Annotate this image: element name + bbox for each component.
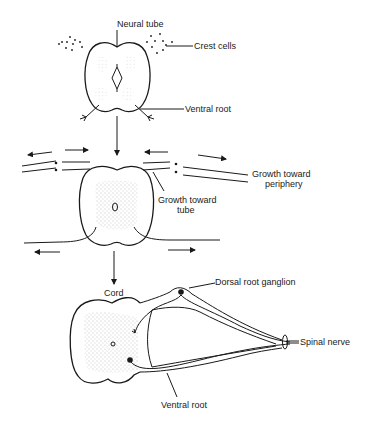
label-growth-toward-tube-2: tube (177, 205, 195, 215)
stage-3-spinal-cord: Cord Spinal nerve Dorsal root ganglion (70, 277, 350, 410)
ventral-root-right (135, 105, 154, 121)
label-spinal-nerve: Spinal nerve (300, 337, 350, 347)
dorsal-root-right-inner (143, 162, 170, 170)
crest-cells-left (58, 36, 83, 51)
ventral-root-left (80, 105, 99, 121)
arrow-left-outward (28, 152, 52, 155)
central-canal (112, 67, 122, 89)
neural-tube-outline (85, 43, 150, 112)
stage-1-neural-tube: Neural tube Crest cells (58, 19, 236, 155)
ventral-root-right-stage-2 (134, 227, 220, 240)
cell-cluster (95, 86, 107, 100)
label-neural-tube: Neural tube (117, 19, 164, 29)
motor-neuron-cell (127, 357, 133, 363)
root-loop-inner (148, 310, 277, 367)
label-crest-cells: Crest cells (194, 41, 237, 51)
crest-cells-right (146, 33, 173, 54)
leader-ventral-root-3 (167, 373, 177, 397)
label-growth-toward-periphery-1: Growth toward (252, 169, 311, 179)
stage-2-root-growth: Growth toward tube Growth toward periphe… (22, 150, 311, 284)
label-growth-toward-periphery-2: periphery (265, 179, 303, 189)
label-dorsal-root-ganglion: Dorsal root ganglion (215, 277, 296, 287)
central-process (135, 295, 181, 333)
arrow-right-outward (198, 155, 226, 159)
ventral-root-left-stage-2 (24, 227, 96, 243)
dorsal-root-ganglion-cell (178, 289, 184, 295)
cell-cluster (124, 55, 136, 71)
label-cord: Cord (104, 288, 124, 298)
grey-matter-stage-3 (84, 312, 138, 373)
label-growth-toward-tube-1: Growth toward (158, 195, 217, 205)
leader-dorsal-root-ganglion (189, 283, 215, 288)
dorsal-root-left-outer (22, 161, 56, 172)
ventral-root-outer (140, 348, 282, 372)
cell-cluster (96, 56, 108, 72)
neural-development-diagram: Neural tube Crest cells (0, 0, 375, 425)
peripheral-process (181, 295, 290, 342)
label-ventral-root-3: Ventral root (161, 400, 208, 410)
dorsal-root-outer (140, 288, 282, 340)
dorsal-root-right-outer (183, 167, 248, 182)
cell-cluster (122, 87, 134, 101)
label-ventral-root-1: Ventral root (185, 104, 232, 114)
grey-matter (95, 181, 137, 229)
dorsal-root-left-inner (62, 162, 90, 170)
leader-growth-toward-tube (153, 172, 164, 191)
